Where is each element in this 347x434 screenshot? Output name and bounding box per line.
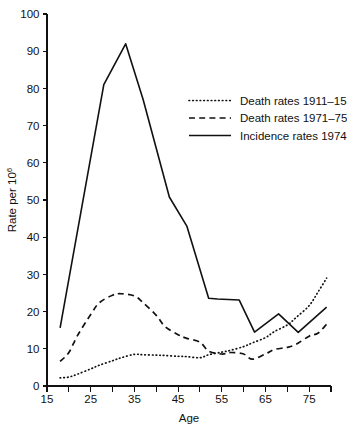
y-tick-label: 70 <box>27 120 40 132</box>
y-tick-label: 50 <box>27 194 40 206</box>
tick-marks <box>43 14 332 392</box>
line-chart: 010203040506070809010015253545556575 Dea… <box>0 0 347 434</box>
x-axis-title: Age <box>179 412 199 424</box>
x-tick-label: 45 <box>172 393 185 405</box>
x-tick-label: 35 <box>128 393 141 405</box>
chart-figure: 010203040506070809010015253545556575 Dea… <box>0 0 347 434</box>
x-tick-label: 15 <box>41 393 54 405</box>
x-tick-label: 75 <box>303 393 316 405</box>
legend-label: Death rates 1971–75 <box>240 112 347 124</box>
chart-legend: Death rates 1911–15Death rates 1971–75In… <box>189 95 347 142</box>
series-dashed <box>60 294 327 362</box>
y-tick-label: 10 <box>27 343 40 355</box>
y-tick-label: 90 <box>27 45 40 57</box>
y-tick-label: 30 <box>27 269 40 281</box>
x-tick-label: 65 <box>259 393 272 405</box>
y-axis-title: Rate per 106 <box>5 167 18 232</box>
y-tick-label: 80 <box>27 83 40 95</box>
y-tick-label: 60 <box>27 157 40 169</box>
y-tick-label: 100 <box>20 8 39 20</box>
series-solid <box>60 44 327 333</box>
x-tick-label: 55 <box>215 393 228 405</box>
y-axis-title-text: Rate per 10 <box>6 172 18 232</box>
x-tick-label: 25 <box>84 393 97 405</box>
legend-label: Death rates 1911–15 <box>240 95 347 107</box>
series-dotted <box>60 278 327 378</box>
legend-label: Incidence rates 1974 <box>240 130 347 142</box>
y-tick-label: 40 <box>27 231 40 243</box>
y-tick-label: 0 <box>33 380 39 392</box>
axes <box>47 14 331 386</box>
y-axis-title-exponent: 6 <box>5 167 14 172</box>
axis-spine <box>47 14 331 386</box>
y-tick-label: 20 <box>27 306 40 318</box>
tick-labels: 010203040506070809010015253545556575 <box>20 8 315 405</box>
